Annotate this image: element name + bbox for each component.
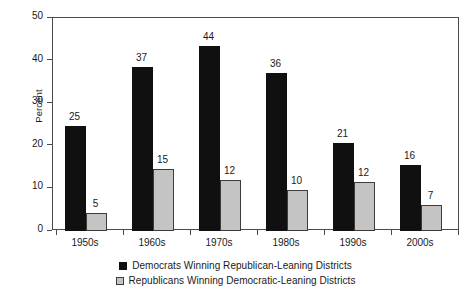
bar-1970s-democrats	[199, 46, 220, 231]
bar-value-label: 25	[61, 111, 89, 122]
x-tick-mark	[257, 230, 258, 235]
y-tick-label: 10	[32, 180, 43, 191]
x-axis-label-2000s: 2000s	[395, 237, 445, 248]
legend-label-republicans: Republicans Winning Democratic-Leaning D…	[129, 275, 356, 286]
x-tick-mark	[190, 230, 191, 235]
bar-value-label: 7	[417, 190, 445, 201]
x-axis-label-1980s: 1980s	[261, 237, 311, 248]
y-tick-label: 30	[32, 95, 43, 106]
bar-value-label: 12	[216, 165, 244, 176]
legend-swatch-democrats-icon	[119, 262, 127, 270]
bar-value-label: 16	[396, 150, 424, 161]
bar-1960s-democrats	[132, 67, 153, 231]
bar-value-label: 12	[350, 167, 378, 178]
x-axis-label-1960s: 1960s	[127, 237, 177, 248]
bar-value-label: 36	[262, 58, 290, 69]
y-tick-label: 0	[37, 223, 43, 234]
legend-item: Democrats Winning Republican-Leaning Dis…	[0, 258, 471, 273]
bar-value-label: 21	[329, 128, 357, 139]
y-tick-label: 40	[32, 53, 43, 64]
x-tick-mark	[324, 230, 325, 235]
bar-chart: Percent 01020304050 1950s1960s1970s1980s…	[0, 0, 471, 300]
y-tick-label: 20	[32, 138, 43, 149]
x-tick-mark	[123, 230, 124, 235]
x-axis-label-1990s: 1990s	[328, 237, 378, 248]
chart-legend: Democrats Winning Republican-Leaning Dis…	[0, 258, 471, 288]
bar-1980s-democrats	[266, 73, 287, 231]
bar-1970s-republicans	[220, 180, 241, 231]
legend-swatch-republicans-icon	[116, 277, 124, 285]
bar-1950s-democrats	[65, 126, 86, 231]
x-tick-mark	[391, 230, 392, 235]
legend-label-democrats: Democrats Winning Republican-Leaning Dis…	[132, 260, 352, 271]
bar-value-label: 10	[283, 175, 311, 186]
bar-1990s-democrats	[333, 143, 354, 231]
x-tick-mark	[56, 230, 57, 235]
bar-1960s-republicans	[153, 169, 174, 231]
bar-1980s-republicans	[287, 190, 308, 231]
y-tick-label: 50	[32, 10, 43, 21]
bar-value-label: 37	[128, 52, 156, 63]
x-axis-label-1950s: 1950s	[60, 237, 110, 248]
x-tick-mark	[458, 230, 459, 235]
x-axis-label-1970s: 1970s	[194, 237, 244, 248]
bar-value-label: 15	[149, 154, 177, 165]
plot-area	[52, 17, 459, 230]
bar-1950s-republicans	[86, 213, 107, 231]
bar-value-label: 5	[82, 198, 110, 209]
legend-item: Republicans Winning Democratic-Leaning D…	[0, 273, 471, 288]
bar-2000s-republicans	[421, 205, 442, 231]
bar-value-label: 44	[195, 31, 223, 42]
bar-1990s-republicans	[354, 182, 375, 231]
